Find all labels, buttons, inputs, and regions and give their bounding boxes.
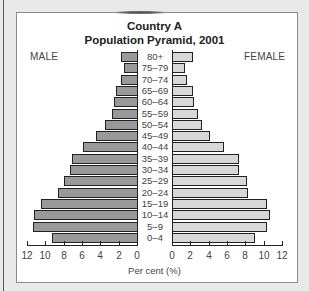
female-bar <box>172 97 194 107</box>
male-tick-label: 0 <box>127 250 147 261</box>
legend-male: MALE <box>30 51 58 62</box>
male-tick-label: 12 <box>17 250 37 261</box>
female-bar <box>172 52 193 62</box>
age-group-label: 35–39 <box>138 154 172 165</box>
male-axis-vertical <box>137 50 138 246</box>
age-group-label: 25–29 <box>138 176 172 187</box>
male-tick <box>119 241 120 245</box>
age-group-label: 80+ <box>138 52 172 63</box>
male-tick <box>100 241 101 245</box>
female-tick-label: 0 <box>162 250 182 261</box>
x-axis-label: Per cent (%) <box>0 265 309 276</box>
male-bar <box>33 222 138 232</box>
male-bar <box>112 109 138 119</box>
female-tick-label: 4 <box>199 250 219 261</box>
male-tick-label: 2 <box>109 250 129 261</box>
male-tick-label: 4 <box>90 250 110 261</box>
male-bar <box>114 97 138 107</box>
chart-subtitle: Population Pyramid, 2001 <box>0 34 309 46</box>
chart-title: Country A <box>0 20 309 32</box>
female-axis-vertical <box>172 50 173 246</box>
female-bar <box>172 109 198 119</box>
female-tick <box>209 241 210 245</box>
male-bar <box>105 120 138 130</box>
female-bar <box>172 199 267 209</box>
female-bar <box>172 222 267 232</box>
female-bar <box>172 120 202 130</box>
female-tick-label: 10 <box>254 250 274 261</box>
female-bar <box>172 165 239 175</box>
female-tick-label: 6 <box>217 250 237 261</box>
age-group-label: 50–54 <box>138 120 172 131</box>
female-x-axis <box>172 245 283 246</box>
female-bar <box>172 131 210 141</box>
female-tick <box>264 241 265 245</box>
female-bar <box>172 154 239 164</box>
female-bar <box>172 188 248 198</box>
age-group-label: 55–59 <box>138 109 172 120</box>
male-bar <box>121 75 138 85</box>
female-bar <box>172 210 270 220</box>
female-bar <box>172 86 193 96</box>
female-bar <box>172 142 224 152</box>
female-tick <box>282 241 283 245</box>
age-group-label: 45–49 <box>138 131 172 142</box>
age-group-label: 10–14 <box>138 210 172 221</box>
male-tick-label: 10 <box>35 250 55 261</box>
age-group-label: 65–69 <box>138 86 172 97</box>
scan-artifact <box>115 11 165 14</box>
female-tick <box>172 241 173 245</box>
female-tick-label: 2 <box>180 250 200 261</box>
female-bar <box>172 63 185 73</box>
male-tick-label: 6 <box>72 250 92 261</box>
male-bar <box>41 199 138 209</box>
male-tick <box>64 241 65 245</box>
male-bar <box>121 52 139 62</box>
female-bar <box>172 233 255 243</box>
age-group-label: 40–44 <box>138 142 172 153</box>
female-tick <box>227 241 228 245</box>
age-group-label: 75–79 <box>138 63 172 74</box>
age-group-label: 60–64 <box>138 97 172 108</box>
age-group-label: 15–19 <box>138 199 172 210</box>
age-group-label: 20–24 <box>138 188 172 199</box>
male-tick-label: 8 <box>54 250 74 261</box>
male-bar <box>83 142 138 152</box>
male-tick <box>137 241 138 245</box>
male-tick <box>45 241 46 245</box>
male-tick <box>82 241 83 245</box>
female-tick <box>245 241 246 245</box>
female-bar <box>172 176 247 186</box>
male-bar <box>96 131 138 141</box>
legend-female: FEMALE <box>244 51 285 62</box>
age-group-label: 70–74 <box>138 75 172 86</box>
male-bar <box>116 86 138 96</box>
female-tick-label: 8 <box>235 250 255 261</box>
female-tick-label: 12 <box>272 250 292 261</box>
male-bar <box>124 63 138 73</box>
male-bar <box>64 176 138 186</box>
age-group-label: 30–34 <box>138 165 172 176</box>
female-tick <box>190 241 191 245</box>
age-group-label: 0–4 <box>138 233 172 244</box>
male-bar <box>34 210 138 220</box>
male-bar <box>70 165 138 175</box>
male-bar <box>72 154 138 164</box>
male-tick <box>27 241 28 245</box>
male-bar <box>58 188 138 198</box>
female-bar <box>172 75 187 85</box>
male-x-axis <box>27 245 138 246</box>
age-group-label: 5–9 <box>138 222 172 233</box>
